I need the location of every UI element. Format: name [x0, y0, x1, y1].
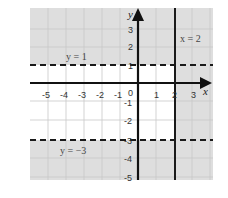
svg-text:-4: -4: [124, 154, 132, 164]
coordinate-plane: -5 -4 -3 -2 -1 0 1 2 3 3 2 1 -1 -2 -3 -4…: [0, 0, 228, 198]
x-tick-labels: -5 -4 -3 -2 -1 0 1 2 3: [42, 88, 196, 100]
svg-text:-4: -4: [60, 90, 68, 100]
svg-text:-2: -2: [124, 116, 132, 126]
svg-text:2: 2: [128, 42, 133, 52]
label-y-equals-neg3: y = −3: [60, 145, 86, 156]
y-axis-label: y: [127, 8, 133, 20]
x-axis-label: x: [202, 85, 208, 97]
svg-text:-2: -2: [96, 90, 104, 100]
svg-text:-3: -3: [78, 90, 86, 100]
svg-text:0: 0: [128, 88, 133, 98]
svg-text:-5: -5: [124, 173, 132, 183]
svg-text:-3: -3: [124, 136, 132, 146]
svg-text:3: 3: [128, 25, 133, 35]
unshaded-band: [30, 65, 175, 140]
svg-text:1: 1: [128, 61, 133, 71]
label-y-equals-1: y = 1: [66, 51, 87, 62]
svg-text:3: 3: [191, 90, 196, 100]
svg-text:-5: -5: [42, 90, 50, 100]
svg-text:-1: -1: [114, 90, 122, 100]
label-x-equals-2: x = 2: [180, 33, 201, 44]
svg-text:1: 1: [154, 90, 159, 100]
svg-text:2: 2: [172, 90, 177, 100]
svg-text:-1: -1: [124, 98, 132, 108]
